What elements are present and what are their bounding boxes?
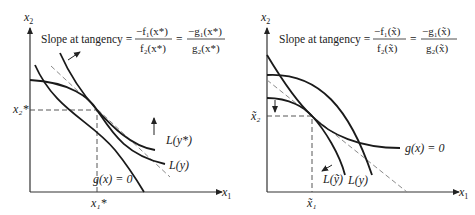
- left-x1-tick: x₁*: [90, 196, 107, 210]
- left-L-y-star-curve: [60, 53, 155, 150]
- left-frac2-denominator: g₂(x*): [192, 42, 220, 55]
- left-frac2-numerator: −g₁(x*): [188, 25, 222, 38]
- left-frac1-numerator: −f₁(x*): [136, 25, 168, 38]
- right-inward-arrow-icon: [322, 165, 332, 171]
- right-frac2-numerator: −g₁(x̃): [422, 25, 451, 38]
- left-outward-arrow-icon: [68, 52, 80, 60]
- right-label-L-y: L(y): [347, 173, 368, 187]
- left-equals: =: [176, 33, 183, 45]
- right-x2-tick: x̃₂: [250, 109, 261, 123]
- left-tangency-guides: [30, 110, 97, 192]
- right-equals: =: [410, 33, 417, 45]
- right-label-constraint: g(x) = 0: [405, 141, 444, 155]
- right-tangency-guides: [267, 116, 312, 192]
- right-x-axis-label: x1: [458, 185, 468, 201]
- right-L-y-tilde-curve: [267, 55, 345, 175]
- left-label-L-y-star: L(y*): [165, 133, 192, 147]
- right-frac1-numerator: −f₁(x̃): [374, 25, 401, 38]
- left-L-y-curve: [30, 80, 165, 164]
- left-label-constraint: g(x) = 0: [93, 172, 132, 186]
- left-x-axis-label: x1: [221, 185, 231, 201]
- right-slope-label: Slope at tangency =: [279, 33, 370, 46]
- left-x2-tick: x₂*: [12, 102, 29, 116]
- left-label-L-y: L(y): [168, 158, 189, 172]
- right-frac1-denominator: f₂(x̃): [377, 42, 398, 55]
- left-slope-label: Slope at tangency =: [41, 33, 132, 46]
- right-x1-tick: x̃₁: [306, 196, 317, 210]
- left-frac1-denominator: f₂(x*): [140, 42, 166, 55]
- left-y-axis-label: x2: [23, 10, 33, 26]
- right-frac2-denominator: g₂(x̃): [426, 42, 448, 55]
- right-y-axis-label: x2: [260, 10, 270, 26]
- right-constraint-curve: [267, 98, 400, 148]
- right-label-L-y-tilde: L(ỹ): [322, 172, 343, 186]
- diagram-canvas: x2 x1 Slope at tangency = −f₁(x*) f₂(x*)…: [0, 0, 475, 215]
- left-panel: x2 x1 Slope at tangency = −f₁(x*) f₂(x*)…: [12, 10, 231, 210]
- right-panel: x2 x1 Slope at tangency = −f₁(x̃) f₂(x̃)…: [250, 10, 468, 210]
